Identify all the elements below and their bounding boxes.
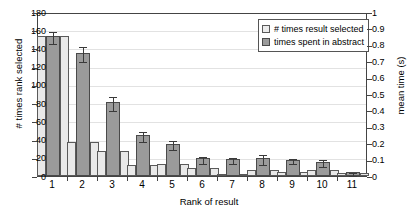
y-axis-right-tick-label: 0.4 bbox=[372, 107, 385, 116]
error-bar bbox=[113, 97, 114, 110]
x-axis-tick-label: 4 bbox=[127, 180, 157, 190]
bar-times-result-selected bbox=[360, 173, 369, 176]
error-bar bbox=[143, 132, 144, 142]
x-axis-tick-label: 3 bbox=[97, 180, 127, 190]
x-axis-tick-label: 7 bbox=[217, 180, 247, 190]
error-bar-cap bbox=[319, 160, 327, 161]
error-bar-cap bbox=[349, 176, 357, 177]
error-bar-cap bbox=[49, 32, 57, 33]
bar-times-result-selected bbox=[187, 168, 196, 176]
error-bar bbox=[263, 155, 264, 165]
error-bar bbox=[53, 32, 54, 43]
error-bar bbox=[173, 141, 174, 150]
y-axis-right-tick bbox=[367, 111, 372, 112]
y-axis-left-tick bbox=[32, 86, 37, 87]
y-axis-left-tick bbox=[32, 177, 37, 178]
bar-times-result-selected bbox=[67, 142, 76, 176]
y-axis-right-tick-label: 0.7 bbox=[372, 58, 385, 67]
y-axis-left-tick bbox=[32, 122, 37, 123]
legend-item-times-result-selected: # times result selected bbox=[262, 23, 364, 35]
x-axis-tick bbox=[97, 177, 98, 181]
x-axis-tick-label: 10 bbox=[307, 180, 337, 190]
x-axis-tick bbox=[277, 177, 278, 181]
y-axis-right-tick-label: 0.9 bbox=[372, 25, 385, 34]
y-axis-right-tick-label: 0.2 bbox=[372, 140, 385, 149]
legend-swatch-icon bbox=[262, 25, 270, 33]
x-axis-tick-label: 11 bbox=[337, 180, 367, 190]
y-axis-left-tick bbox=[32, 31, 37, 32]
bar-times-result-selected bbox=[157, 164, 166, 176]
y-axis-right-tick bbox=[367, 177, 372, 178]
legend-item-label: times spent in abstract bbox=[274, 38, 364, 47]
bar-times-result-selected bbox=[127, 165, 136, 176]
error-bar-cap bbox=[139, 132, 147, 133]
y-axis-right-tick bbox=[367, 62, 372, 63]
error-bar-cap bbox=[259, 155, 267, 156]
x-axis-tick bbox=[67, 177, 68, 181]
chart-legend: # times result selected times spent in a… bbox=[258, 19, 369, 52]
x-axis-tick-label: 1 bbox=[37, 180, 67, 190]
y-axis-right-tick bbox=[367, 46, 372, 47]
error-bar-cap bbox=[319, 167, 327, 168]
y-axis-right-tick bbox=[367, 128, 372, 129]
legend-swatch-icon bbox=[262, 38, 270, 46]
y-axis-right-tick bbox=[367, 144, 372, 145]
y-axis-right-tick bbox=[367, 95, 372, 96]
x-axis-title: Rank of result bbox=[0, 196, 418, 207]
y-axis-left-tick bbox=[32, 104, 37, 105]
x-axis-tick bbox=[127, 177, 128, 181]
error-bar-cap bbox=[289, 164, 297, 165]
error-bar-cap bbox=[79, 47, 87, 48]
x-axis-tick bbox=[217, 177, 218, 181]
y-axis-right-tick-label: 0.5 bbox=[372, 91, 385, 100]
x-axis-tick-label: 8 bbox=[247, 180, 277, 190]
error-bar-cap bbox=[229, 158, 237, 159]
error-bar-cap bbox=[109, 97, 117, 98]
bar-times-spent-in-abstract bbox=[46, 36, 60, 176]
x-axis-tick bbox=[157, 177, 158, 181]
y-axis-right-tick-label: 0.8 bbox=[372, 41, 385, 50]
chart-figure: # times rank selected mean time (s) Rank… bbox=[0, 0, 418, 220]
x-axis-tick bbox=[307, 177, 308, 181]
bar-times-spent-in-abstract bbox=[76, 53, 90, 176]
bar-times-result-selected bbox=[277, 172, 286, 176]
y-axis-left-tick bbox=[32, 13, 37, 14]
bar-times-result-selected bbox=[97, 151, 106, 177]
y-axis-left-tick-label: 60 bbox=[36, 118, 46, 127]
bar-times-result-selected bbox=[337, 173, 346, 176]
y-axis-right-title: mean time (s) bbox=[395, 11, 406, 161]
bar-times-result-selected bbox=[247, 170, 256, 176]
error-bar-cap bbox=[199, 157, 207, 158]
y-axis-right-tick bbox=[367, 79, 372, 80]
y-axis-left-tick bbox=[32, 68, 37, 69]
error-bar-cap bbox=[169, 141, 177, 142]
error-bar-cap bbox=[289, 159, 297, 160]
x-axis-tick-label: 6 bbox=[187, 180, 217, 190]
error-bar-cap bbox=[49, 44, 57, 45]
x-axis-tick-label: 9 bbox=[277, 180, 307, 190]
error-bar-cap bbox=[199, 164, 207, 165]
error-bar bbox=[203, 157, 204, 164]
y-axis-right-tick-label: 0 bbox=[372, 173, 377, 182]
y-axis-right-tick-label: 1 bbox=[372, 9, 377, 18]
error-bar-cap bbox=[109, 111, 117, 112]
y-axis-left-title: # times rank selected bbox=[13, 9, 24, 159]
error-bar-cap bbox=[229, 164, 237, 165]
legend-item-times-spent-in-abstract: times spent in abstract bbox=[262, 36, 364, 48]
x-axis-tick bbox=[337, 177, 338, 181]
error-bar-cap bbox=[349, 173, 357, 174]
error-bar-cap bbox=[79, 62, 87, 63]
legend-item-label: # times result selected bbox=[274, 25, 364, 34]
x-axis-tick-label: 5 bbox=[157, 180, 187, 190]
y-axis-left-tick-label: 20 bbox=[36, 154, 46, 163]
y-axis-right-tick bbox=[367, 161, 372, 162]
y-axis-right-tick-label: 0.6 bbox=[372, 74, 385, 83]
error-bar-cap bbox=[259, 165, 267, 166]
y-axis-left-tick bbox=[32, 49, 37, 50]
y-axis-left-tick bbox=[32, 141, 37, 142]
y-axis-right-tick-label: 0.3 bbox=[372, 123, 385, 132]
error-bar bbox=[83, 47, 84, 62]
y-axis-left-tick bbox=[32, 159, 37, 160]
bar-times-spent-in-abstract bbox=[106, 102, 120, 176]
y-axis-right-tick bbox=[367, 29, 372, 30]
